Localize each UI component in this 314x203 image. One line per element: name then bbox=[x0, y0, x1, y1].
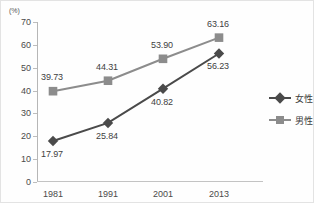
data-value-label: 53.90 bbox=[151, 40, 173, 50]
data-point-marker bbox=[48, 136, 58, 146]
y-tick-label: 60 bbox=[21, 40, 31, 50]
data-point-marker bbox=[103, 118, 113, 128]
series-line-female bbox=[53, 53, 219, 140]
y-tick-label: 10 bbox=[21, 154, 31, 164]
diamond-marker-icon bbox=[274, 92, 285, 103]
legend-swatch bbox=[269, 92, 291, 104]
y-axis-unit-label: (%) bbox=[9, 7, 20, 14]
line-chart: (%) 010203040506070 1981199120012013 17.… bbox=[0, 0, 314, 203]
data-value-label: 63.16 bbox=[207, 19, 229, 29]
data-point-marker bbox=[49, 87, 58, 96]
x-tick-label: 2001 bbox=[153, 189, 173, 199]
data-value-label: 25.84 bbox=[96, 131, 118, 141]
data-value-label: 44.31 bbox=[96, 62, 118, 72]
data-value-label: 56.23 bbox=[207, 61, 229, 71]
legend-swatch bbox=[269, 114, 291, 126]
data-point-marker bbox=[159, 55, 168, 64]
y-tick-label: 50 bbox=[21, 63, 31, 73]
legend-item[interactable]: 女性 bbox=[269, 87, 313, 109]
data-value-label: 17.97 bbox=[41, 149, 63, 159]
y-tick-label: 20 bbox=[21, 131, 31, 141]
data-point-marker bbox=[158, 83, 168, 93]
legend-item[interactable]: 男性 bbox=[269, 109, 313, 131]
chart-legend: 女性男性 bbox=[269, 87, 313, 131]
data-point-marker bbox=[214, 48, 224, 58]
legend-label: 女性 bbox=[295, 92, 313, 105]
legend-label: 男性 bbox=[295, 114, 313, 127]
data-point-marker bbox=[215, 33, 224, 42]
y-tick-label: 40 bbox=[21, 86, 31, 96]
series-line-male bbox=[53, 38, 219, 92]
x-tick-label: 2013 bbox=[209, 189, 229, 199]
y-tick-label: 30 bbox=[21, 108, 31, 118]
plot-area: 010203040506070 1981199120012013 17.9725… bbox=[37, 22, 263, 182]
data-value-label: 39.73 bbox=[41, 72, 63, 82]
data-point-marker bbox=[104, 76, 113, 85]
y-tick-label: 70 bbox=[21, 17, 31, 27]
x-tick-label: 1991 bbox=[98, 189, 118, 199]
data-value-label: 40.82 bbox=[151, 97, 173, 107]
square-marker-icon bbox=[276, 116, 284, 124]
y-tick-label: 0 bbox=[26, 177, 31, 187]
y-tick-mark bbox=[33, 182, 37, 183]
x-tick-label: 1981 bbox=[43, 189, 63, 199]
